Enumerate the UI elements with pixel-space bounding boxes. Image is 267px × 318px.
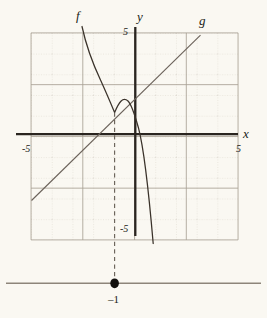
y-tick-bottom-label: -5 [120,224,128,234]
x-tick-right-label: 5 [236,144,241,154]
y-axis-label: y [137,10,143,23]
y-tick-top-label: 5 [123,27,128,37]
number-line-point-label: –1 [108,294,119,305]
curve-f-label: f [76,9,80,22]
x-tick-left-label: -5 [22,144,30,154]
number-line-point [110,278,119,288]
graph-figure [0,0,267,318]
line-g-label: g [199,14,206,27]
x-axis-label: x [243,127,249,140]
